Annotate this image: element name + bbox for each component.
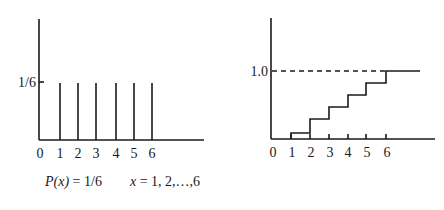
cdf-step-line xyxy=(291,71,420,139)
pmf-x-tick-label: 2 xyxy=(75,146,82,161)
pmf-x-tick-label: 0 xyxy=(37,146,44,161)
pmf-y-tick-label: 1/6 xyxy=(18,75,36,90)
cdf-x-tick-label: 0 xyxy=(270,145,277,160)
cdf-x-tick-label: 6 xyxy=(384,145,391,160)
pmf-x-tick-label: 3 xyxy=(93,146,100,161)
pmf-formula: P(x) = 1/6 xyxy=(45,174,102,190)
domain-formula-rhs: = 1, 2,…,6 xyxy=(140,174,200,189)
cdf-x-tick-label: 2 xyxy=(308,145,315,160)
cdf-x-tick-label: 4 xyxy=(345,145,352,160)
cdf-x-tick-label: 3 xyxy=(327,145,334,160)
pmf-x-tick-label: 4 xyxy=(113,146,120,161)
cdf-y-tick-label: 1.0 xyxy=(251,64,269,79)
pmf-chart xyxy=(39,19,204,140)
pmf-formula-rhs: = 1/6 xyxy=(73,174,102,189)
domain-formula: x = 1, 2,…,6 xyxy=(130,174,200,190)
pmf-x-tick-label: 6 xyxy=(149,146,156,161)
pmf-formula-lhs: P(x) xyxy=(45,174,69,189)
cdf-chart xyxy=(271,18,435,139)
pmf-x-tick-label: 5 xyxy=(131,146,138,161)
cdf-x-tick-label: 1 xyxy=(289,145,296,160)
cdf-x-tick-label: 5 xyxy=(364,145,371,160)
domain-formula-var: x xyxy=(130,174,136,189)
cdf-x-tick-labels: 0 1 2 3 4 5 6 xyxy=(270,145,391,160)
pmf-x-tick-label: 1 xyxy=(57,146,64,161)
pmf-x-tick-labels: 0 1 2 3 4 5 6 xyxy=(37,146,156,161)
